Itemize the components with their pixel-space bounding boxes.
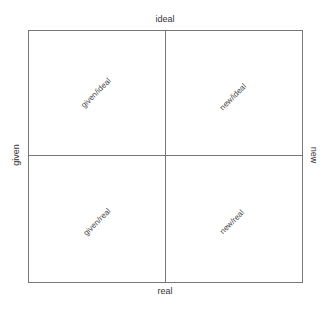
vertical-divider (165, 30, 166, 282)
axis-label-top: ideal (0, 14, 328, 24)
axis-label-right: new (309, 147, 319, 164)
axis-label-bottom: real (0, 286, 328, 296)
horizontal-divider (28, 155, 303, 156)
axis-label-left: given (11, 144, 21, 166)
